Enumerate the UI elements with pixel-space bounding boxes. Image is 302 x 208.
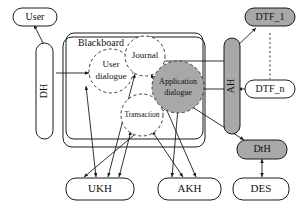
edge-appdialogue-akh	[172, 108, 178, 177]
edge-transaction-ukh	[119, 131, 131, 177]
diagram-canvas: Blackboard Us	[0, 0, 302, 208]
node-application-dialogue-label-1: Application	[159, 77, 197, 86]
node-ukh[interactable]: UKH	[66, 178, 134, 200]
node-application-dialogue-label-2: dialogue	[164, 88, 192, 97]
node-transaction-label: Transaction	[124, 110, 159, 119]
node-user[interactable]: User	[13, 8, 57, 26]
node-application-dialogue[interactable]: Application dialogue	[152, 61, 204, 113]
node-dtf-1[interactable]: DTF_1	[245, 8, 295, 26]
node-dh[interactable]: DH	[36, 43, 53, 139]
node-dtf-n[interactable]: DTF_n	[245, 80, 295, 98]
node-ah[interactable]: AH	[224, 38, 240, 134]
node-ukh-label: UKH	[88, 182, 112, 194]
node-user-dialogue-label-2: dialogue	[96, 71, 127, 81]
node-user-dialogue-label-1: User	[103, 59, 120, 69]
node-user-label: User	[26, 11, 46, 22]
blackboard-label: Blackboard	[78, 37, 124, 48]
node-des[interactable]: DES	[233, 178, 289, 200]
node-journal-label: Journal	[132, 50, 159, 60]
edge-dh-user	[34, 25, 44, 45]
node-dtf-n-label: DTF_n	[256, 83, 285, 94]
node-des-label: DES	[251, 182, 272, 194]
node-dtf-1-label: DTF_1	[256, 11, 285, 22]
edge-transaction-akh	[152, 131, 183, 177]
node-dth[interactable]: DtH	[237, 140, 287, 159]
node-akh-label: AKH	[178, 182, 202, 194]
node-akh[interactable]: AKH	[158, 178, 221, 200]
edge-userdialogue-ukh	[86, 86, 96, 177]
node-ah-label: AH	[225, 79, 236, 93]
node-dth-label: DtH	[253, 143, 270, 154]
architecture-diagram: Blackboard Us	[0, 0, 302, 208]
node-dh-label: DH	[38, 84, 49, 98]
